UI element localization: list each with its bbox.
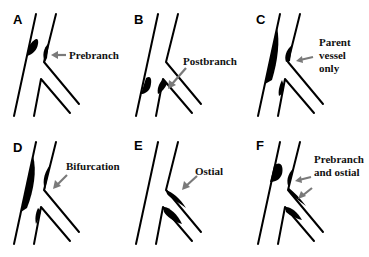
panel-f: F Prebranch and ostial <box>256 138 364 244</box>
vessel-walls <box>14 14 79 116</box>
vessel-walls <box>258 14 323 116</box>
lesion-label-line-2: vessel <box>319 49 346 61</box>
plaque-lesions <box>141 77 167 94</box>
lesion-label-line-1: Prebranch <box>314 153 364 165</box>
panel-d: D Bifurcation <box>13 140 120 244</box>
bifurcation-lesion-diagram: A Prebranch B Postbr <box>0 0 369 257</box>
vessel-walls <box>14 142 79 244</box>
pointer-arrow <box>53 175 67 189</box>
panel-letter: F <box>256 138 264 153</box>
pointer-arrow <box>51 51 66 59</box>
lesion-label-line-3: only <box>319 62 340 74</box>
panel-a: A Prebranch <box>13 12 119 116</box>
panel-letter: A <box>13 12 23 27</box>
plaque-lesions <box>21 156 53 224</box>
plaque-lesions <box>270 164 306 220</box>
panel-letter: C <box>256 12 266 27</box>
pointer-arrow <box>182 176 197 190</box>
panel-b: B Postbranch <box>134 12 237 116</box>
panel-c: C Parent vessel only <box>256 12 351 116</box>
pointer-arrow <box>168 68 186 89</box>
lesion-label: Prebranch <box>69 49 119 61</box>
lesion-label: Postbranch <box>183 55 237 67</box>
plaque-lesions <box>163 190 186 224</box>
lesion-label: Ostial <box>195 165 223 177</box>
lesion-label: Bifurcation <box>66 160 120 172</box>
panel-e: E Ostial <box>134 138 223 244</box>
pointer-arrow <box>296 56 313 63</box>
pointer-arrows <box>295 176 312 199</box>
panel-letter: B <box>134 12 143 27</box>
panel-letter: E <box>134 138 143 153</box>
lesion-label-line-2: and ostial <box>314 166 360 178</box>
lesion-label-line-1: Parent <box>319 36 351 48</box>
panel-letter: D <box>13 140 22 155</box>
